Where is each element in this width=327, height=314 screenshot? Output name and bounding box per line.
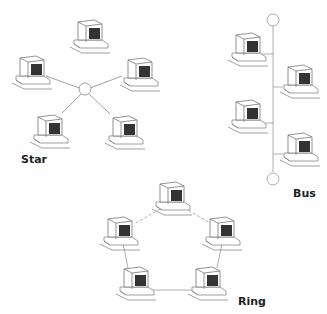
computer-icon: [188, 267, 228, 300]
computer-icon: [12, 56, 52, 89]
computer-icon: [120, 58, 160, 91]
network-topologies-diagram: [0, 0, 327, 314]
computer-icon: [105, 116, 145, 149]
computer-icon: [280, 65, 320, 98]
computer-icon: [228, 33, 268, 66]
computer-icon: [100, 217, 140, 250]
bus-label: Bus: [293, 187, 316, 200]
computer-icon: [280, 133, 320, 166]
ring-label: Ring: [238, 295, 266, 308]
star-topology: [46, 76, 122, 114]
computer-icon: [70, 20, 110, 53]
computer-icon: [116, 267, 156, 300]
star-label: Star: [21, 153, 47, 166]
computer-icon: [228, 100, 268, 133]
computer-icon: [30, 115, 70, 148]
bus-topology: [262, 14, 283, 185]
